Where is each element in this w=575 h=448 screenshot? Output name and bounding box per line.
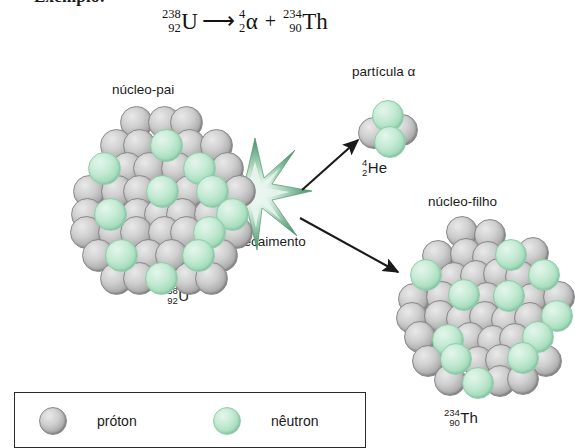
nuclear-equation: 238 92 U ⟶ 4 2 α + 234 90 Th <box>162 8 328 35</box>
label-parent-nucleus: núcleo-pai <box>112 82 174 97</box>
neutron-sphere <box>146 175 179 208</box>
plus-sign: + <box>265 10 276 33</box>
legend-item-proton: próton <box>39 407 137 435</box>
neutron-sphere <box>150 129 183 162</box>
legend-item-neutron: nêutron <box>213 407 318 435</box>
caption-thorium-isotope: 234 90 Th <box>444 408 478 427</box>
caption-helium-symbol: He <box>368 159 387 176</box>
arrow-to-daughter-nucleus <box>300 218 398 272</box>
neutron-sphere <box>410 259 442 291</box>
label-daughter-nucleus: núcleo-filho <box>428 194 497 209</box>
arrow-to-alpha-particle <box>302 140 358 190</box>
neutron-sphere <box>182 239 215 272</box>
neutron-sphere <box>493 280 525 312</box>
neutron-sphere <box>495 239 527 271</box>
label-alpha-particle: partícula α <box>352 64 415 79</box>
caption-thorium-symbol: Th <box>460 409 478 426</box>
neutron-sphere <box>528 259 560 291</box>
alpha-atomic-number: 2 <box>239 22 245 35</box>
page-heading: Exemplo: <box>34 0 105 7</box>
equation-parent-nuclide: 238 92 U <box>162 8 198 35</box>
neutron-sphere <box>507 342 539 374</box>
parent-mass-number: 238 <box>162 8 181 21</box>
neutron-sphere-icon <box>213 407 241 435</box>
parent-symbol: U <box>181 9 198 35</box>
parent-numbers: 238 92 <box>162 8 181 35</box>
alpha-mass-number: 4 <box>239 8 245 21</box>
alpha-symbol: α <box>246 9 258 35</box>
alpha-numbers: 4 2 <box>239 8 245 35</box>
caption-helium-atomic: 2 <box>362 168 367 178</box>
caption-parent-atomic: 92 <box>167 296 178 306</box>
daughter-numbers: 234 90 <box>283 8 302 35</box>
daughter-atomic-number: 90 <box>289 22 302 35</box>
neutron-sphere <box>448 279 480 311</box>
parent-atomic-number: 92 <box>168 22 181 35</box>
proton-sphere-icon <box>39 407 67 435</box>
equation-daughter-nuclide: 234 90 Th <box>283 8 328 35</box>
neutron-sphere <box>94 198 127 231</box>
caption-thorium-atomic: 90 <box>449 418 460 428</box>
reaction-arrow-icon: ⟶ <box>202 7 233 34</box>
caption-thorium-numbers: 234 90 <box>444 408 460 427</box>
caption-helium-numbers: 4 2 <box>362 158 367 177</box>
alpha-particle-cluster <box>358 100 424 158</box>
neutron-sphere <box>374 126 406 158</box>
legend-label-neutron: nêutron <box>271 413 318 429</box>
neutron-sphere <box>88 152 121 185</box>
neutron-sphere <box>145 262 178 295</box>
legend-label-proton: próton <box>97 413 137 429</box>
neutron-sphere <box>105 239 138 272</box>
daughter-symbol: Th <box>302 9 328 35</box>
caption-helium-isotope: 4 2 He <box>362 158 387 177</box>
daughter-mass-number: 234 <box>283 8 302 21</box>
daughter-nucleus-cluster <box>396 218 556 398</box>
neutron-sphere <box>462 367 494 399</box>
parent-nucleus-cluster <box>60 108 250 288</box>
equation-alpha-nuclide: 4 2 α <box>239 8 258 35</box>
legend-box: próton nêutron <box>14 392 366 448</box>
